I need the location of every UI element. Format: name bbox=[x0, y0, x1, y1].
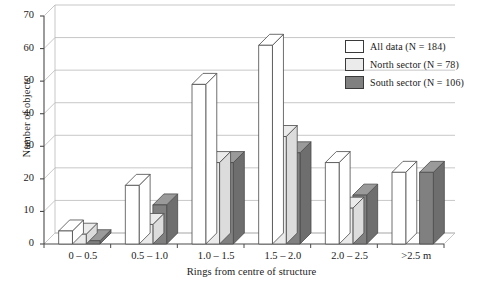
legend-item: South sector (N = 106) bbox=[345, 74, 464, 91]
x-tick-label: >2.5 m bbox=[376, 250, 456, 261]
legend-swatch bbox=[345, 40, 364, 53]
legend-swatch bbox=[345, 76, 364, 89]
y-tick-label: 10 bbox=[8, 205, 34, 216]
y-tick-label: 0 bbox=[8, 238, 34, 249]
legend-item: All data (N = 184) bbox=[345, 38, 464, 55]
y-tick-label: 50 bbox=[8, 75, 34, 86]
y-tick-label: 30 bbox=[8, 140, 34, 151]
y-tick-label: 70 bbox=[8, 10, 34, 21]
bar-chart: Number of objects Rings from centre of s… bbox=[0, 0, 503, 288]
legend-label: North sector (N = 78) bbox=[370, 59, 459, 70]
y-tick-label: 40 bbox=[8, 108, 34, 119]
x-axis-title: Rings from centre of structure bbox=[0, 266, 503, 277]
legend-label: All data (N = 184) bbox=[370, 41, 446, 52]
chart-legend: All data (N = 184)North sector (N = 78)S… bbox=[345, 38, 464, 92]
legend-item: North sector (N = 78) bbox=[345, 56, 464, 73]
legend-swatch bbox=[345, 58, 364, 71]
y-tick-label: 60 bbox=[8, 43, 34, 54]
y-tick-label: 20 bbox=[8, 173, 34, 184]
legend-label: South sector (N = 106) bbox=[370, 77, 464, 88]
